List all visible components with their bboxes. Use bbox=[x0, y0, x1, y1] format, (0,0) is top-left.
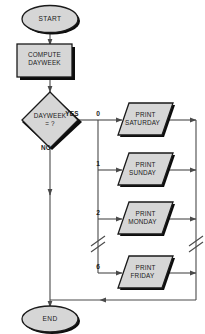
node-decision-dayweek bbox=[22, 92, 82, 150]
node-print-sunday bbox=[118, 153, 175, 187]
flowchart-canvas bbox=[0, 0, 205, 334]
node-print-friday bbox=[118, 256, 175, 290]
flowchart-diagram: START COMPUTE DAYWEEK DAYWEEK = ? YES NO… bbox=[0, 0, 205, 334]
node-compute-dayweek bbox=[17, 44, 75, 80]
node-print-saturday bbox=[118, 103, 175, 137]
node-end bbox=[22, 306, 80, 334]
node-print-monday bbox=[118, 202, 175, 236]
node-start bbox=[22, 6, 80, 35]
